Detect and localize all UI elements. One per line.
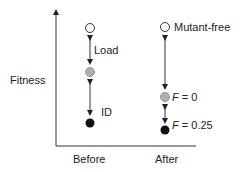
after-gray-point [161,93,170,102]
load-label: Load [94,45,118,56]
mutant-free-label: Mutant-free [174,22,230,33]
after-white-point [161,23,170,32]
before-white-point [86,24,95,33]
f-val: = 0 [179,91,198,103]
f-zero-label: F = 0 [172,92,197,103]
f-val: = 0.25 [179,119,213,131]
before-gray-point [86,68,95,77]
after-black-point [161,126,170,135]
x-label-before: Before [73,154,105,165]
before-black-point [86,119,95,128]
f-quarter-label: F = 0.25 [172,120,213,131]
id-label: ID [101,107,112,118]
x-label-after: After [155,154,178,165]
f-var: F [172,91,179,103]
f-var: F [172,119,179,131]
y-axis-label: Fitness [10,75,45,86]
